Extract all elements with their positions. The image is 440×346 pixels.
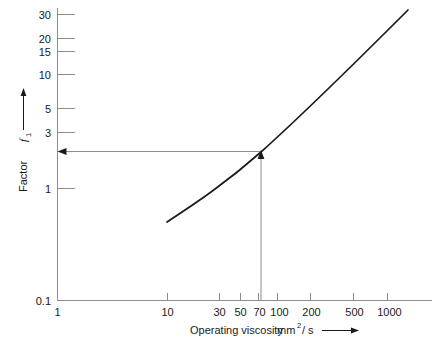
construction-lines-group <box>58 148 265 301</box>
x-tick-label-10: 10 <box>161 306 173 318</box>
x-axis-title-group: Operating viscosity mm 2 / s <box>190 321 359 336</box>
y-axis-title-symbol-subscript: 1 <box>24 133 33 137</box>
x-axis-title-unit-tail: / s <box>302 324 314 336</box>
construction-arrowhead-left <box>58 148 67 155</box>
y-tick-label-15: 15 <box>39 46 51 58</box>
y-tick-label-0.1: 0.1 <box>36 295 51 307</box>
x-axis-title-unit-base: mm <box>277 324 295 336</box>
y-ticks-group <box>58 15 76 301</box>
y-tick-label-1: 1 <box>45 183 51 195</box>
y-axis-title-group: Factor f 1 <box>17 88 33 192</box>
y-tick-label-20: 20 <box>39 33 51 45</box>
data-series-group <box>167 10 408 222</box>
x-ticks-group <box>58 293 388 301</box>
x-tick-label-70: 70 <box>253 306 265 318</box>
y-tick-label-30: 30 <box>39 9 51 21</box>
x-tick-label-50: 50 <box>234 306 246 318</box>
y-axis-title-text: Factor <box>17 160 29 192</box>
x-tick-label-100: 100 <box>270 306 288 318</box>
x-axis-direction-arrowhead <box>351 328 359 334</box>
y-tick-label-10: 10 <box>39 69 51 81</box>
chart-figure: 30 20 15 10 5 3 1 0.1 1 10 30 50 <box>0 0 440 346</box>
x-tick-labels-group: 1 10 30 50 70 100 200 500 1000 <box>54 306 401 318</box>
x-tick-label-30: 30 <box>213 306 225 318</box>
x-tick-label-1: 1 <box>54 306 60 318</box>
chart-canvas: 30 20 15 10 5 3 1 0.1 1 10 30 50 <box>0 0 440 346</box>
y-tick-label-5: 5 <box>45 103 51 115</box>
x-tick-label-1000: 1000 <box>377 306 401 318</box>
x-tick-label-200: 200 <box>302 306 320 318</box>
y-tick-labels-group: 30 20 15 10 5 3 1 0.1 <box>36 9 51 307</box>
y-tick-label-3: 3 <box>45 127 51 139</box>
x-axis-title-unit-exponent: 2 <box>297 321 301 330</box>
axes-group <box>58 8 433 301</box>
y-axis-direction-arrowhead <box>21 88 27 96</box>
series-line-f1 <box>167 10 408 222</box>
x-tick-label-500: 500 <box>345 306 363 318</box>
x-axis-title-text: Operating viscosity <box>190 324 283 336</box>
